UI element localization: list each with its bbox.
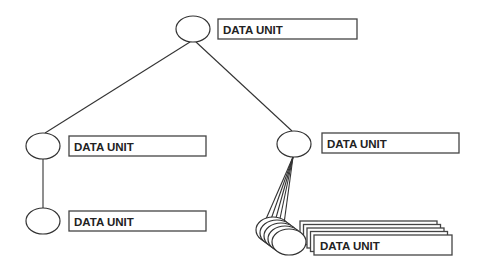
data-unit-label: DATA UNIT — [327, 138, 387, 150]
node-ellipse — [26, 133, 60, 159]
data-unit-label: DATA UNIT — [74, 216, 134, 228]
node-left-child[interactable]: DATA UNIT — [26, 133, 206, 159]
data-unit-label: DATA UNIT — [223, 24, 283, 36]
edge-root-left — [45, 42, 190, 133]
node-ellipse — [26, 208, 60, 234]
node-root[interactable]: DATA UNIT — [176, 16, 357, 42]
node-ellipse — [176, 16, 210, 42]
edge-root-right — [196, 42, 292, 131]
data-unit-label: DATA UNIT — [320, 240, 380, 252]
data-unit-label: DATA UNIT — [74, 141, 134, 153]
node-left-grandchild[interactable]: DATA UNIT — [26, 208, 206, 234]
hierarchy-diagram: DATA UNIT DATA UNIT DATA UNIT DATA UNIT — [0, 0, 483, 271]
node-stack-multiple[interactable]: DATA UNIT — [256, 217, 452, 255]
node-right-child[interactable]: DATA UNIT — [277, 131, 459, 157]
stacked-ellipses — [256, 217, 306, 255]
node-ellipse — [277, 131, 311, 157]
